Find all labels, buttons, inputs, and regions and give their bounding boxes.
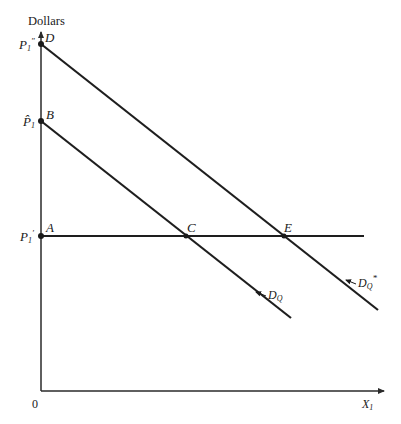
demand-curve-dq-star xyxy=(41,44,378,310)
point-label-c: C xyxy=(187,220,196,235)
point-d xyxy=(38,41,44,47)
point-label-d: D xyxy=(44,30,55,45)
price-label-p1-prime: P1′ xyxy=(19,228,35,245)
p1-double-prime-main: P xyxy=(18,37,27,52)
demand-shift-diagram: Dollars 0 X1 D B A C E P1″ P̂1 P1′ DQ DQ… xyxy=(0,0,401,424)
point-a xyxy=(38,233,44,239)
origin-label: 0 xyxy=(32,397,38,411)
p1-hat-sub: 1 xyxy=(31,121,35,130)
x-axis-label: X1 xyxy=(361,397,373,412)
price-label-p1-hat: P̂1 xyxy=(22,114,35,130)
point-b xyxy=(38,118,44,124)
point-label-e: E xyxy=(283,220,292,235)
dq-sub: Q xyxy=(277,294,283,303)
dq-star-sub: Q xyxy=(367,282,373,291)
x-axis-label-sub: 1 xyxy=(369,403,373,412)
price-label-p1-double-prime: P1″ xyxy=(18,36,35,53)
dq-star-pointer-arrow xyxy=(346,280,356,284)
p1-double-prime-mark: ″ xyxy=(31,36,35,46)
curve-label-dq-star: DQ* xyxy=(357,273,377,291)
p1-hat-main: P̂ xyxy=(22,114,31,129)
dq-star-sup: * xyxy=(372,273,377,283)
dq-main: D xyxy=(267,288,277,302)
point-label-b: B xyxy=(46,107,54,122)
point-label-a: A xyxy=(45,220,54,235)
dq-star-main: D xyxy=(357,276,367,290)
curve-label-dq: DQ xyxy=(267,288,283,303)
p1-prime-main: P xyxy=(19,229,28,244)
p1-prime-mark: ′ xyxy=(32,228,35,238)
demand-curve-dq xyxy=(41,121,291,318)
y-axis-title: Dollars xyxy=(28,14,65,28)
